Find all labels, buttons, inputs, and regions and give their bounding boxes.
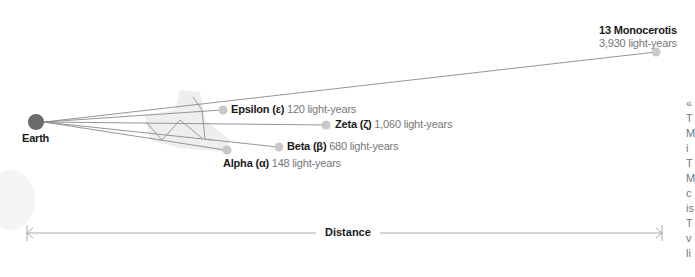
side-text-fragment: c	[686, 186, 695, 201]
earth-label: Earth	[22, 132, 49, 144]
star-label-beta: Beta (β) 680 light-years	[287, 140, 398, 152]
side-text-fragment: M	[686, 171, 695, 186]
constellation-backdrop	[145, 90, 230, 152]
star-distance: 1,060 light-years	[374, 118, 452, 130]
distance-axis-label: Distance	[316, 226, 380, 238]
side-text-fragment: T	[686, 111, 695, 126]
side-text-fragment: T	[686, 156, 695, 171]
star-name: 13 Monocerotis	[599, 24, 661, 37]
star-distance: 3,930 light-years	[599, 37, 661, 50]
side-text-column: « T M i T M c is T v li	[686, 96, 695, 261]
star-distance: 120 light-years	[287, 103, 356, 115]
star-beta-icon	[275, 143, 284, 152]
side-text-fragment: T	[686, 216, 695, 231]
side-text-fragment: v	[686, 231, 695, 246]
side-text-fragment: «	[686, 96, 695, 111]
star-alpha-icon	[223, 146, 232, 155]
star-name: Alpha (α)	[223, 157, 269, 169]
star-label-zeta: Zeta (ζ) 1,060 light-years	[335, 118, 452, 130]
star-distance: 148 light-years	[272, 157, 341, 169]
star-epsilon-icon	[219, 106, 228, 115]
star-name: Zeta (ζ)	[335, 118, 371, 130]
star-name: Epsilon (ε)	[231, 103, 284, 115]
side-text-fragment: li	[686, 246, 695, 261]
sight-lines	[44, 52, 656, 150]
star-label-epsilon: Epsilon (ε) 120 light-years	[231, 103, 356, 115]
background-smudge	[0, 170, 35, 230]
earth-icon	[28, 114, 44, 130]
star-zeta-icon	[322, 121, 331, 130]
side-text-fragment: M	[686, 126, 695, 141]
star-label-13-monocerotis: 13 Monocerotis 3,930 light-years	[599, 24, 661, 50]
star-label-alpha: Alpha (α) 148 light-years	[223, 157, 341, 169]
star-name: Beta (β)	[287, 140, 326, 152]
side-text-fragment: is	[686, 201, 695, 216]
star-distance: 680 light-years	[329, 140, 398, 152]
side-text-fragment: i	[686, 141, 695, 156]
